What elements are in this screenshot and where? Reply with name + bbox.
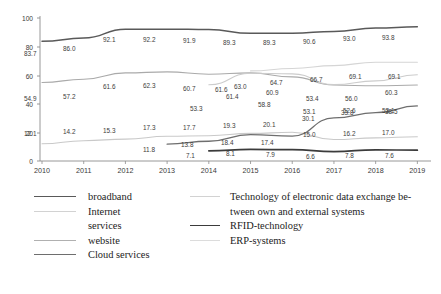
data-label: 91.9 bbox=[183, 37, 195, 44]
data-label: 30.1 bbox=[302, 115, 314, 122]
data-label: 7.1 bbox=[186, 152, 195, 159]
data-label: 69.1 bbox=[349, 73, 361, 80]
data-label: 61.4 bbox=[226, 93, 238, 100]
legend-item-label: Internet bbox=[88, 205, 204, 220]
data-label: 33.8 bbox=[341, 109, 353, 116]
legend-item-label: broadband bbox=[88, 190, 204, 205]
x-tick-2013: 2013 bbox=[150, 167, 184, 175]
data-label: 20.1 bbox=[263, 121, 275, 128]
legend-item[interactable]: website bbox=[34, 234, 204, 249]
data-label: 64.7 bbox=[270, 79, 282, 86]
legend-swatch-line-icon bbox=[34, 254, 76, 255]
data-label: 7.9 bbox=[266, 151, 275, 158]
data-label: 17.7 bbox=[183, 124, 195, 131]
data-label: 89.3 bbox=[263, 39, 275, 46]
legend-item[interactable]: Technology of electronic data exchange b… bbox=[190, 190, 438, 205]
legend-item[interactable]: Cloud services bbox=[34, 248, 204, 263]
x-tick-2014: 2014 bbox=[192, 167, 226, 175]
data-label: 93.0 bbox=[343, 35, 355, 42]
legend-item[interactable]: services bbox=[34, 219, 204, 234]
data-label: 92.2 bbox=[143, 36, 155, 43]
data-label: 18.4 bbox=[221, 139, 233, 146]
data-label: 58.8 bbox=[258, 101, 270, 108]
data-label: 53.1 bbox=[303, 108, 315, 115]
chart-legend: broadbandInternetserviceswebsiteCloud se… bbox=[0, 182, 441, 294]
x-tick-2019: 2019 bbox=[400, 167, 434, 175]
data-label: 16.2 bbox=[343, 130, 355, 137]
x-tick-2010: 2010 bbox=[25, 167, 59, 175]
data-label: 12.1 bbox=[24, 130, 36, 137]
line-chart-plot-area: 100806040200 201020112012201320142015201… bbox=[0, 0, 441, 180]
data-label: 15.3 bbox=[103, 127, 115, 134]
data-label: 7.8 bbox=[345, 152, 354, 159]
data-label: 57.2 bbox=[63, 93, 75, 100]
legend-column-left: broadbandInternetserviceswebsiteCloud se… bbox=[34, 190, 204, 263]
series-line-3 bbox=[167, 106, 417, 144]
data-label: 6.6 bbox=[306, 153, 315, 160]
data-label: 13.8 bbox=[181, 141, 193, 148]
data-label: 89.3 bbox=[223, 39, 235, 46]
series-line-6 bbox=[251, 62, 418, 71]
data-label: 62.3 bbox=[143, 82, 155, 89]
data-label: 8.1 bbox=[226, 150, 235, 157]
data-label: 53.4 bbox=[306, 95, 318, 102]
legend-swatch-line-icon bbox=[190, 240, 220, 241]
legend-swatch-line-icon bbox=[34, 196, 76, 197]
data-label: 92.1 bbox=[103, 36, 115, 43]
legend-swatch-line-icon bbox=[190, 196, 220, 197]
data-label: 17.0 bbox=[382, 129, 394, 136]
data-label: 90.6 bbox=[303, 38, 315, 45]
data-label: 54.9 bbox=[24, 95, 36, 102]
data-label: 66.7 bbox=[310, 76, 322, 83]
data-label: 53.3 bbox=[190, 105, 202, 112]
x-tick-2012: 2012 bbox=[108, 167, 142, 175]
x-tick-2011: 2011 bbox=[67, 167, 101, 175]
data-label: 93.8 bbox=[382, 34, 394, 41]
y-tick-100: 100 bbox=[11, 15, 33, 22]
x-tick-2017: 2017 bbox=[317, 167, 351, 175]
legend-item-label: ERP-systems bbox=[230, 234, 438, 249]
data-label: 7.6 bbox=[385, 152, 394, 159]
legend-item-label: Technology of electronic data exchange b… bbox=[230, 190, 438, 205]
data-label: 14.2 bbox=[63, 128, 75, 135]
legend-column-right: Technology of electronic data exchange b… bbox=[190, 190, 438, 248]
legend-swatch-line-icon bbox=[34, 240, 76, 241]
legend-item-label: tween own and external systems bbox=[230, 205, 438, 220]
legend-item[interactable]: tween own and external systems bbox=[190, 205, 438, 220]
y-tick-60: 60 bbox=[11, 73, 33, 80]
data-label: 38.5 bbox=[385, 108, 397, 115]
data-label: 11.8 bbox=[143, 146, 155, 153]
x-tick-2015: 2015 bbox=[234, 167, 268, 175]
legend-swatch-line-icon bbox=[190, 225, 220, 226]
data-label: 60.9 bbox=[266, 89, 278, 96]
chart-screenshot: 100806040200 201020112012201320142015201… bbox=[0, 0, 441, 294]
x-tick-2018: 2018 bbox=[359, 167, 393, 175]
legend-swatch-line-icon bbox=[34, 211, 76, 212]
data-label: 83.7 bbox=[24, 50, 36, 57]
data-label: 60.3 bbox=[385, 89, 397, 96]
legend-item[interactable]: broadband bbox=[34, 190, 204, 205]
x-tick-2016: 2016 bbox=[275, 167, 309, 175]
data-label: 60.7 bbox=[183, 85, 195, 92]
legend-item[interactable]: RFID-technology bbox=[190, 219, 438, 234]
legend-item-label: services bbox=[88, 219, 204, 234]
data-label: 69.1 bbox=[388, 73, 400, 80]
legend-item-label: website bbox=[88, 234, 204, 249]
data-label: 17.3 bbox=[143, 124, 155, 131]
data-label: 61.6 bbox=[103, 83, 115, 90]
legend-item[interactable]: ERP-systems bbox=[190, 234, 438, 249]
data-label: 56.0 bbox=[345, 95, 357, 102]
data-label: 61.6 bbox=[215, 86, 227, 93]
data-label: 15.0 bbox=[303, 131, 315, 138]
data-label: 19.3 bbox=[223, 122, 235, 129]
legend-item-label: RFID-technology bbox=[230, 219, 438, 234]
data-label: 86.0 bbox=[63, 45, 75, 52]
legend-item-label: Cloud services bbox=[88, 248, 204, 263]
y-tick-0: 0 bbox=[11, 158, 33, 165]
data-label: 63.0 bbox=[234, 83, 246, 90]
legend-item[interactable]: Internet bbox=[34, 205, 204, 220]
data-label: 17.4 bbox=[261, 139, 273, 146]
